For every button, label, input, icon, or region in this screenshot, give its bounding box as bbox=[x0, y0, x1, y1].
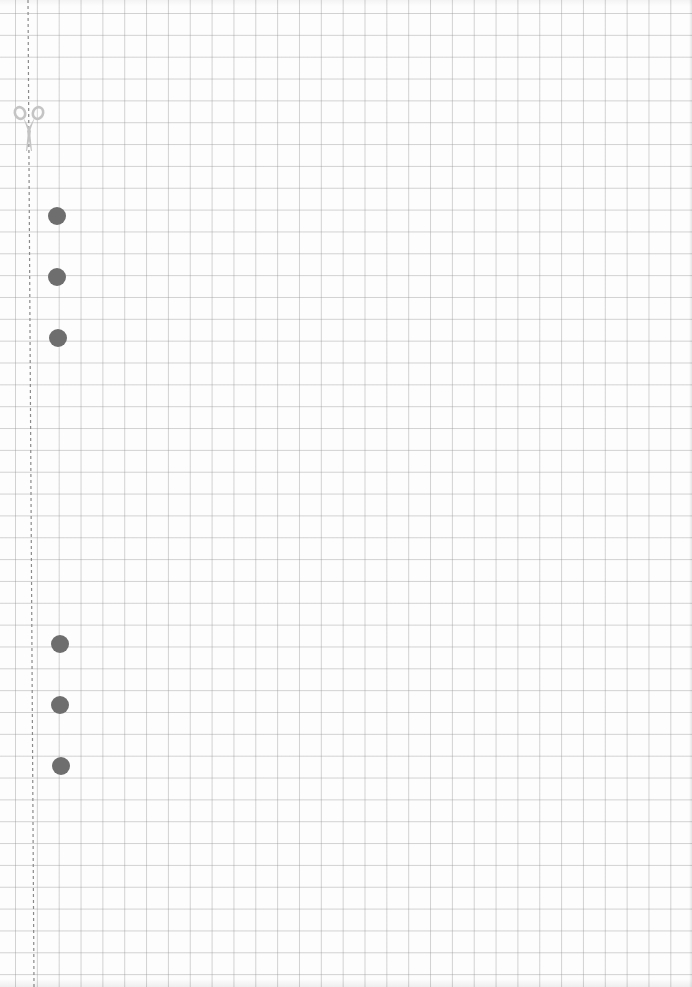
punch-hole bbox=[51, 696, 69, 714]
punch-hole bbox=[49, 329, 67, 347]
top-edge-shadow bbox=[0, 0, 692, 6]
grid-paper-sheet bbox=[0, 0, 692, 987]
dashed-cut-line bbox=[0, 0, 692, 987]
punch-hole bbox=[48, 207, 66, 225]
punch-hole bbox=[51, 635, 69, 653]
scissors-icon bbox=[12, 105, 46, 153]
punch-hole bbox=[48, 268, 66, 286]
bottom-edge-shadow bbox=[0, 979, 692, 987]
punch-hole bbox=[52, 757, 70, 775]
